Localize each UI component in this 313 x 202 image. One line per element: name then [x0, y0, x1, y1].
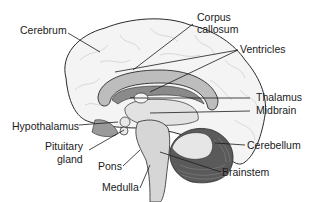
label-hypothalamus: Hypothalamus [12, 120, 79, 132]
brainstem-shape [136, 120, 170, 202]
label-corpus-callosum-line1: Corpus [197, 11, 231, 23]
label-ventricles: Ventricles [240, 43, 286, 55]
label-pituitary-line1: Pituitary [45, 140, 83, 152]
label-thalamus: Thalamus [256, 91, 302, 103]
brain-diagram: Cerebrum Corpus callosum Ventricles Thal… [0, 0, 313, 202]
label-corpus-callosum-line2: callosum [197, 23, 238, 35]
label-pituitary-line2: gland [57, 153, 83, 165]
label-cerebellum: Cerebellum [247, 139, 301, 151]
label-midbrain: Midbrain [256, 104, 296, 116]
label-pons: Pons [98, 160, 122, 172]
label-brainstem: Brainstem [222, 166, 269, 178]
label-medulla: Medulla [102, 181, 139, 193]
label-cerebrum: Cerebrum [20, 24, 67, 36]
